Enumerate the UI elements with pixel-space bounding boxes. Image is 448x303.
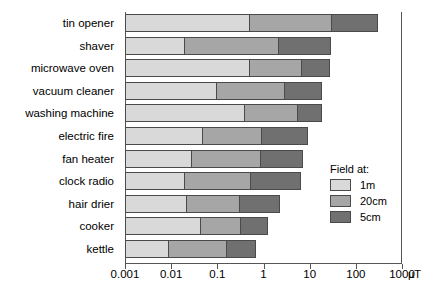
bar-segment-20cm: [184, 172, 250, 190]
bar-segment-1m: [125, 127, 203, 145]
bar-segment-20cm: [202, 127, 262, 145]
bar-segment-5cm: [250, 172, 301, 190]
axis-tick-label: 0.1: [209, 268, 225, 280]
legend-label: 1m: [360, 179, 375, 191]
axis-tick-label: 1: [260, 268, 266, 280]
category-label: shaver: [0, 35, 120, 58]
category-label: washing machine: [0, 102, 120, 125]
bar-segment-20cm: [249, 14, 332, 32]
bar-segment-1m: [125, 14, 250, 32]
bar-segment-1m: [125, 150, 192, 168]
bar-segment-5cm: [301, 59, 330, 77]
bar-segment-1m: [125, 59, 250, 77]
legend-items: 1m20cm5cm: [330, 179, 387, 223]
category-label: clock radio: [0, 170, 120, 193]
bar-segment-20cm: [184, 37, 279, 55]
bar-segment-5cm: [239, 195, 280, 213]
bar-segment-20cm: [168, 240, 227, 258]
bar-segment-5cm: [226, 240, 256, 258]
category-label: hair drier: [0, 193, 120, 216]
bar-segment-1m: [125, 195, 187, 213]
bar-row: [125, 127, 308, 145]
bar-segment-20cm: [200, 217, 241, 235]
category-label: vacuum cleaner: [0, 80, 120, 103]
category-axis: tin openershavermicrowave ovenvacuum cle…: [0, 12, 120, 261]
category-label: electric fire: [0, 125, 120, 148]
axis-tick-label: 10: [303, 268, 316, 280]
category-label: fan heater: [0, 148, 120, 171]
legend: Field at: 1m20cm5cm: [330, 163, 387, 227]
bar-segment-20cm: [249, 59, 302, 77]
bar-segment-5cm: [297, 104, 321, 122]
bar-segment-5cm: [260, 150, 303, 168]
bar-row: [125, 104, 322, 122]
bar-segment-5cm: [284, 82, 322, 100]
legend-entry: 5cm: [330, 211, 387, 223]
axis-tick-label: 0.01: [160, 268, 182, 280]
bar-row: [125, 14, 378, 32]
bar-row: [125, 82, 322, 100]
bar-segment-5cm: [240, 217, 268, 235]
bar-segment-5cm: [261, 127, 307, 145]
bar-segment-20cm: [191, 150, 262, 168]
bar-segment-20cm: [186, 195, 240, 213]
legend-swatch: [330, 195, 351, 207]
legend-label: 5cm: [360, 211, 381, 223]
bar-chart: tin openershavermicrowave ovenvacuum cle…: [0, 0, 448, 303]
axis-tick-label: 0.001: [111, 268, 140, 280]
bar-segment-1m: [125, 240, 169, 258]
bar-row: [125, 195, 280, 213]
axis-unit-label: µT: [408, 268, 421, 280]
category-label: kettle: [0, 238, 120, 261]
axis-tick-label: 100: [346, 268, 365, 280]
bar-row: [125, 240, 256, 258]
bar-row: [125, 172, 301, 190]
bar-segment-1m: [125, 217, 201, 235]
bar-segment-20cm: [216, 82, 284, 100]
legend-entry: 1m: [330, 179, 387, 191]
legend-swatch: [330, 211, 351, 223]
bar-row: [125, 150, 303, 168]
bar-segment-1m: [125, 104, 245, 122]
legend-swatch: [330, 179, 351, 191]
bar-segment-1m: [125, 82, 217, 100]
category-label: tin opener: [0, 12, 120, 35]
bar-row: [125, 59, 330, 77]
bar-segment-1m: [125, 172, 185, 190]
category-label: cooker: [0, 215, 120, 238]
bar-segment-5cm: [331, 14, 378, 32]
legend-title: Field at:: [330, 163, 387, 175]
legend-entry: 20cm: [330, 195, 387, 207]
legend-label: 20cm: [360, 195, 387, 207]
bar-segment-1m: [125, 37, 185, 55]
bar-segment-5cm: [278, 37, 331, 55]
bar-row: [125, 217, 268, 235]
bar-row: [125, 37, 331, 55]
category-label: microwave oven: [0, 57, 120, 80]
bar-segment-20cm: [244, 104, 298, 122]
